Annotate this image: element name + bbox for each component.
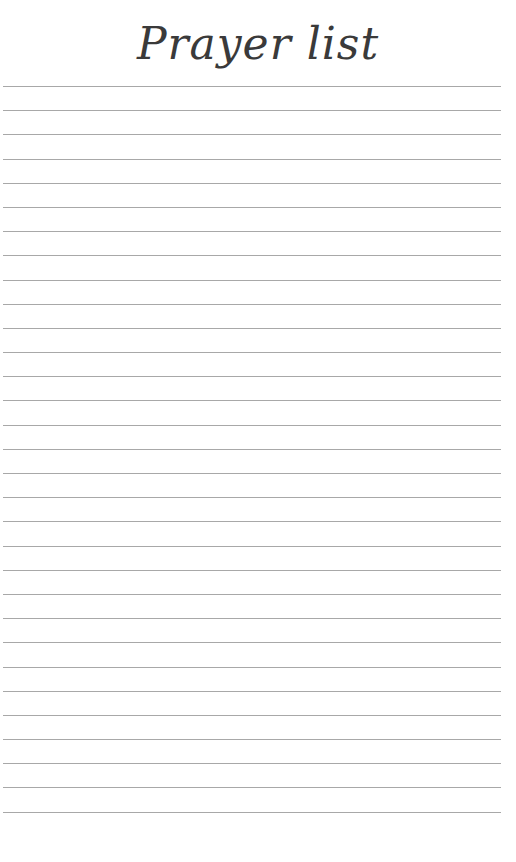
- writing-line: [3, 642, 501, 643]
- writing-line: [3, 400, 501, 401]
- writing-line: [3, 207, 501, 208]
- writing-line: [3, 570, 501, 571]
- writing-line: [3, 812, 501, 813]
- writing-lines: [3, 86, 501, 836]
- writing-line: [3, 449, 501, 450]
- writing-line: [3, 110, 501, 111]
- writing-line: [3, 787, 501, 788]
- writing-line: [3, 594, 501, 595]
- page-title: Prayer list: [0, 14, 516, 74]
- writing-line: [3, 425, 501, 426]
- writing-line: [3, 521, 501, 522]
- writing-line: [3, 376, 501, 377]
- writing-line: [3, 231, 501, 232]
- writing-line: [3, 328, 501, 329]
- writing-line: [3, 255, 501, 256]
- writing-line: [3, 691, 501, 692]
- writing-line: [3, 497, 501, 498]
- writing-line: [3, 546, 501, 547]
- writing-line: [3, 134, 501, 135]
- writing-line: [3, 715, 501, 716]
- writing-line: [3, 183, 501, 184]
- writing-line: [3, 159, 501, 160]
- writing-line: [3, 618, 501, 619]
- writing-line: [3, 667, 501, 668]
- writing-line: [3, 352, 501, 353]
- writing-line: [3, 739, 501, 740]
- writing-line: [3, 280, 501, 281]
- writing-line: [3, 763, 501, 764]
- writing-line: [3, 473, 501, 474]
- writing-line: [3, 304, 501, 305]
- writing-line: [3, 86, 501, 87]
